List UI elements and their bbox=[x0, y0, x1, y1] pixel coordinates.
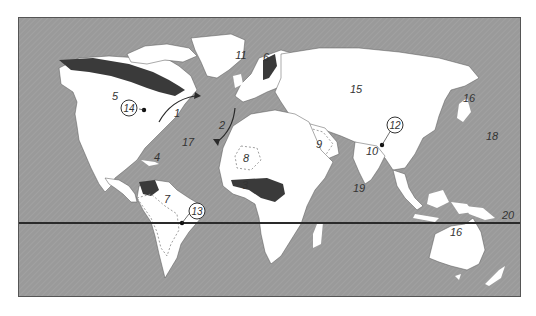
label-15: 15 bbox=[350, 83, 362, 95]
label-3: 3 bbox=[242, 179, 248, 191]
label-19: 19 bbox=[353, 182, 365, 194]
label-16-australia: 16 bbox=[450, 226, 462, 238]
label-17: 17 bbox=[182, 136, 194, 148]
label-9: 9 bbox=[316, 138, 322, 150]
label-4: 4 bbox=[154, 151, 160, 163]
circled-label-13: 13 bbox=[189, 203, 206, 220]
circled-label-12: 12 bbox=[387, 117, 404, 134]
label-8: 8 bbox=[243, 152, 249, 164]
label-10: 10 bbox=[366, 145, 378, 157]
map-graphic bbox=[19, 18, 521, 297]
label-6: 6 bbox=[263, 51, 269, 63]
label-7: 7 bbox=[164, 193, 170, 205]
world-map: 1 2 3 4 5 6 7 8 9 10 11 15 16 17 18 19 2… bbox=[18, 17, 521, 297]
label-18: 18 bbox=[486, 130, 498, 142]
label-20: 20 bbox=[502, 209, 514, 221]
label-2: 2 bbox=[219, 119, 225, 131]
label-16: 16 bbox=[463, 92, 475, 104]
label-11: 11 bbox=[235, 49, 246, 61]
label-1: 1 bbox=[174, 107, 180, 119]
circled-label-14: 14 bbox=[121, 100, 138, 117]
label-5: 5 bbox=[112, 90, 118, 102]
